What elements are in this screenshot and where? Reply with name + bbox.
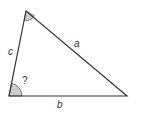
side-c-label: c	[8, 46, 13, 57]
unknown-angle-label: ?	[22, 75, 28, 86]
triangle-diagram: a c b ?	[0, 0, 163, 115]
side-b-label: b	[57, 99, 63, 110]
side-a-label: a	[74, 38, 80, 49]
